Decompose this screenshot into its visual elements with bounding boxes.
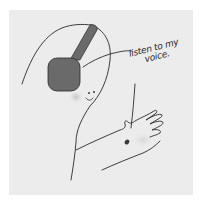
- headphone-ear-cup: [48, 58, 80, 91]
- right-eye: [93, 91, 95, 93]
- left-eye: [88, 92, 90, 94]
- cheek-blush: [68, 90, 84, 104]
- headphone-band: [70, 25, 97, 60]
- hand-dot: [124, 139, 130, 146]
- sketch-drawing: [0, 0, 199, 202]
- smile: [86, 98, 93, 100]
- hand-shading: [131, 131, 155, 149]
- hairline: [83, 51, 132, 67]
